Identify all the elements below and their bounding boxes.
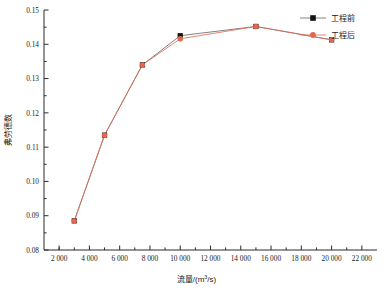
x-tick-label: 20 000	[322, 254, 342, 263]
y-axis-title: 弗劳德数	[3, 114, 13, 146]
data-point-after	[178, 36, 183, 41]
data-point-after	[72, 218, 77, 223]
legend-label-0: 工程前	[331, 13, 355, 23]
x-tick-label: 8 000	[142, 254, 159, 263]
y-tick-label: 0.09	[26, 211, 39, 220]
x-tick-label: 6 000	[111, 254, 128, 263]
series-line-after	[74, 26, 331, 220]
legend-marker-circle	[310, 32, 316, 38]
x-tick-label: 10 000	[170, 254, 190, 263]
series-line-before	[74, 26, 331, 220]
x-tick-label: 22 000	[352, 254, 372, 263]
chart-container: 0.080.090.100.110.120.130.140.152 0004 0…	[0, 0, 391, 290]
y-tick-label: 0.08	[26, 246, 39, 255]
froude-number-line-chart: 0.080.090.100.110.120.130.140.152 0004 0…	[0, 0, 391, 290]
data-point-after	[140, 62, 145, 67]
x-tick-label: 4 000	[81, 254, 98, 263]
y-tick-label: 0.12	[26, 109, 39, 118]
x-axis-title: 流量/(m3/s)	[177, 274, 217, 284]
y-tick-label: 0.10	[26, 177, 39, 186]
y-tick-label: 0.11	[27, 143, 40, 152]
y-tick-label: 0.15	[26, 6, 39, 15]
x-axis-title-suffix: /s)	[207, 275, 216, 284]
data-point-after	[253, 24, 258, 29]
x-tick-label: 12 000	[200, 254, 220, 263]
legend-label-1: 工程后	[331, 30, 355, 40]
legend-marker-square	[310, 15, 316, 21]
x-tick-label: 18 000	[291, 254, 311, 263]
y-tick-label: 0.14	[26, 40, 39, 49]
x-axis-title-prefix: 流量/(m	[177, 274, 205, 284]
x-tick-label: 2 000	[51, 254, 68, 263]
y-tick-label: 0.13	[26, 74, 39, 83]
x-tick-label: 16 000	[261, 254, 281, 263]
x-tick-label: 14 000	[231, 254, 251, 263]
data-point-after	[102, 132, 107, 137]
